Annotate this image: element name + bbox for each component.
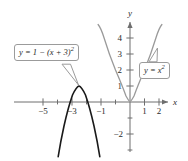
y-tick-label-2: 2: [118, 65, 123, 75]
curve-y-equals-one-minus-x-plus-three-squared: [58, 86, 100, 157]
y-tick-label--2: −2: [113, 129, 123, 139]
y-tick-label-3: 3: [118, 49, 123, 59]
y-axis-label: y: [127, 8, 132, 18]
coordinate-plot: −5 −3 −1 1 2 1 2 3 4 −2 x y: [0, 0, 188, 161]
y-axis-arrowhead: [127, 22, 132, 28]
x-axis-label: x: [172, 97, 177, 107]
annotation-right-text: y = x: [144, 65, 162, 75]
annotation-label-right: y = x2: [139, 62, 170, 79]
axis-group: [14, 22, 168, 152]
y-tick-label-4: 4: [118, 33, 123, 43]
x-tick-label-1: 1: [142, 106, 147, 116]
left-callout-leader: [62, 64, 79, 85]
x-tick-label--1: −1: [96, 106, 106, 116]
graph-figure: −5 −3 −1 1 2 1 2 3 4 −2 x y y = 1 − (x +…: [0, 0, 188, 161]
x-tick-label-2: 2: [157, 106, 162, 116]
annotation-left-text: y = 1 − (x + 3): [19, 47, 71, 57]
annotation-right-exponent: 2: [162, 63, 165, 70]
annotation-left-exponent: 2: [71, 45, 74, 52]
x-axis-arrowhead: [162, 99, 168, 104]
x-tick-label--5: −5: [38, 106, 48, 116]
annotation-label-left: y = 1 − (x + 3)2: [14, 44, 79, 61]
